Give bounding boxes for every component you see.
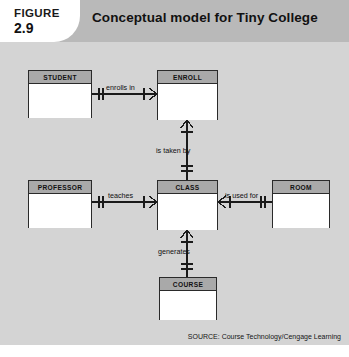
- entity-attributes-area: [158, 84, 217, 120]
- entity-attributes-area: [29, 194, 91, 228]
- source-credit: SOURCE: Course Technology/Cengage Learni…: [188, 333, 341, 340]
- entity-name-label: PROFESSOR: [38, 184, 83, 191]
- figure-container: FIGURE 2.9 Conceptual model for Tiny Col…: [0, 0, 349, 357]
- entity-attributes-area: [160, 291, 216, 320]
- figure-title: Conceptual model for Tiny College: [92, 10, 318, 25]
- entity-header: COURSE: [160, 278, 216, 291]
- entity-header: STUDENT: [29, 71, 91, 84]
- entity-professor[interactable]: PROFESSOR: [28, 180, 92, 228]
- entity-header: ENROLL: [158, 71, 217, 84]
- entity-student[interactable]: STUDENT: [28, 70, 92, 118]
- entity-enroll[interactable]: ENROLL: [157, 70, 218, 120]
- entity-header: ROOM: [273, 181, 329, 194]
- entity-class[interactable]: CLASS: [157, 180, 218, 230]
- entity-header: CLASS: [158, 181, 217, 194]
- relationship-label-is-taken-by: is taken by: [156, 146, 190, 155]
- relationship-label-is-used-for: is used for: [225, 191, 258, 200]
- entity-attributes-area: [273, 194, 329, 228]
- entity-header: PROFESSOR: [29, 181, 91, 194]
- erd-canvas: STUDENT ENROLL PROFESSOR CLASS ROOM: [0, 42, 349, 345]
- entity-attributes-area: [29, 84, 91, 118]
- entity-name-label: ENROLL: [173, 74, 202, 81]
- entity-name-label: COURSE: [173, 281, 203, 288]
- entity-name-label: ROOM: [290, 184, 312, 191]
- entity-course[interactable]: COURSE: [159, 277, 217, 320]
- relationship-label-teaches: teaches: [108, 191, 133, 200]
- entity-attributes-area: [158, 194, 217, 230]
- entity-name-label: STUDENT: [43, 74, 77, 81]
- figure-number-label: 2.9: [14, 20, 33, 36]
- entity-name-label: CLASS: [175, 184, 199, 191]
- relationship-label-generates: generates: [158, 247, 190, 256]
- entity-room[interactable]: ROOM: [272, 180, 330, 228]
- figure-word-label: FIGURE: [14, 7, 60, 19]
- figure-header-band: FIGURE 2.9 Conceptual model for Tiny Col…: [0, 0, 349, 42]
- relationship-label-enrolls-in: enrolls in: [106, 83, 135, 92]
